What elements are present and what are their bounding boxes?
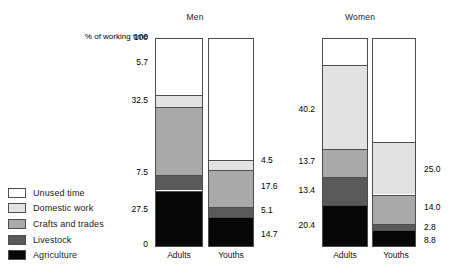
legend-swatch-domestic-work-icon	[8, 203, 26, 213]
segment-women-youths-crafts-and-trades	[373, 195, 415, 224]
legend-item-crafts-and-trades[interactable]: Crafts and trades	[8, 216, 104, 232]
bar-men-adults[interactable]	[155, 38, 203, 247]
legend-item-unused-time[interactable]: Unused time	[8, 185, 104, 201]
value-label-women-adults-crafts-and-trades: 13.7	[253, 156, 315, 166]
value-label-women-youths-crafts-and-trades: 14.0	[424, 202, 457, 212]
legend-label-crafts-and-trades: Crafts and trades	[33, 219, 104, 229]
panel-title-women: Women	[305, 12, 415, 22]
value-label-men-adults-crafts-and-trades: 32.5	[86, 95, 148, 105]
value-label-women-youths-domestic-work: 25.0	[424, 164, 457, 174]
value-label-women-adults-agriculture: 20.4	[253, 220, 315, 230]
legend-item-agriculture[interactable]: Agriculture	[8, 247, 104, 263]
segment-men-adults-domestic-work	[156, 95, 202, 107]
legend-label-agriculture: Agriculture	[33, 250, 77, 260]
segment-men-youths-crafts-and-trades	[209, 170, 253, 207]
value-label-women-youths-agriculture: 8.8	[424, 235, 457, 245]
segment-women-adults-livestock	[323, 177, 367, 205]
y-axis-tick-0: 0	[112, 239, 148, 249]
legend-swatch-crafts-and-trades-icon	[8, 219, 26, 229]
segment-women-youths-domestic-work	[373, 142, 415, 194]
bar-women-youths[interactable]	[372, 38, 416, 247]
segment-women-youths-unused-time	[373, 39, 415, 142]
segment-men-youths-agriculture	[209, 217, 253, 247]
segment-men-adults-unused-time	[156, 39, 202, 95]
legend-label-domestic-work: Domestic work	[33, 203, 93, 213]
segment-men-youths-domestic-work	[209, 160, 253, 169]
chart-canvas: Men Women % of working time 100 0 Adults…	[0, 0, 457, 278]
segment-women-adults-crafts-and-trades	[323, 149, 367, 178]
segment-women-adults-unused-time	[323, 39, 367, 65]
legend-swatch-unused-time-icon	[8, 188, 26, 198]
value-label-women-adults-livestock: 13.4	[253, 185, 315, 195]
bar-women-adults[interactable]	[322, 38, 368, 247]
bar-xlabel-women-youths: Youths	[366, 250, 426, 260]
legend-label-livestock: Livestock	[33, 235, 71, 245]
segment-women-adults-domestic-work	[323, 65, 367, 149]
legend-item-domestic-work[interactable]: Domestic work	[8, 201, 104, 217]
segment-men-youths-livestock	[209, 207, 253, 218]
value-label-men-adults-domestic-work: 5.7	[86, 57, 148, 67]
value-label-women-youths-livestock: 2.8	[424, 222, 457, 232]
segment-men-adults-livestock	[156, 175, 202, 191]
bar-men-youths[interactable]	[208, 38, 254, 247]
segment-women-adults-agriculture	[323, 205, 367, 247]
value-label-men-youths-agriculture: 14.7	[261, 229, 301, 239]
legend-label-unused-time: Unused time	[33, 188, 85, 198]
legend-swatch-agriculture-icon	[8, 250, 26, 260]
value-label-men-youths-livestock: 5.1	[261, 205, 301, 215]
value-label-women-adults-domestic-work: 40.2	[253, 104, 315, 114]
legend-item-livestock[interactable]: Livestock	[8, 232, 104, 248]
bar-xlabel-men-adults: Adults	[149, 250, 209, 260]
y-axis-tick-100: 100	[112, 32, 148, 42]
panel-title-men: Men	[140, 12, 250, 22]
chart-legend: Unused time Domestic work Crafts and tra…	[8, 185, 104, 263]
segment-men-adults-crafts-and-trades	[156, 107, 202, 175]
value-label-men-adults-livestock: 7.5	[86, 167, 148, 177]
legend-swatch-livestock-icon	[8, 235, 26, 245]
segment-men-adults-agriculture	[156, 191, 202, 248]
bar-xlabel-men-youths: Youths	[201, 250, 261, 260]
segment-women-youths-agriculture	[373, 230, 415, 247]
segment-men-youths-unused-time	[209, 39, 253, 160]
